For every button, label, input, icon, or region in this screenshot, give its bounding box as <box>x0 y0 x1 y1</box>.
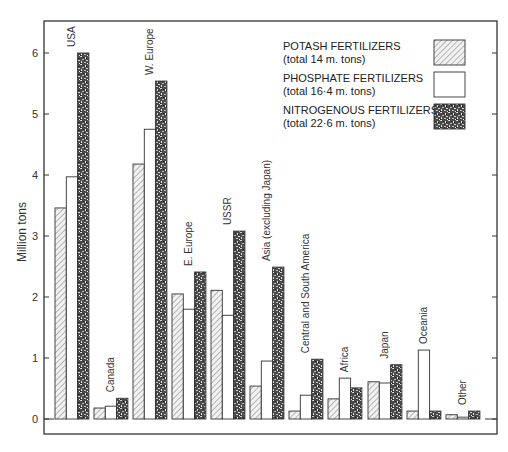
legend-note: (total 22·6 m. tons) <box>283 117 375 129</box>
bar-group <box>446 411 480 419</box>
bar-group <box>94 398 128 419</box>
category-label: Asia (excluding Japan) <box>261 160 272 261</box>
bar-speckled <box>273 267 284 419</box>
legend-label: PHOSPHATE FERTILIZERS <box>283 72 423 84</box>
bar-white <box>66 177 77 419</box>
bar-speckled <box>156 81 167 419</box>
y-tick-label: 2 <box>32 291 38 303</box>
y-tick-label: 5 <box>32 108 38 120</box>
bar-hatched <box>289 411 300 419</box>
y-tick-label: 1 <box>32 352 38 364</box>
category-label: USSR <box>222 197 233 225</box>
bar-white <box>339 378 350 419</box>
category-label: W. Europe <box>144 28 155 75</box>
bar-hatched <box>133 164 144 419</box>
bar-speckled <box>117 398 128 419</box>
bar-white <box>183 309 194 419</box>
category-label: Other <box>457 379 468 405</box>
category-label: Japan <box>379 331 390 358</box>
bar-hatched <box>407 411 418 419</box>
bar-group <box>172 272 206 419</box>
y-tick-label: 0 <box>32 413 38 425</box>
legend-swatch <box>434 40 465 65</box>
bar-speckled <box>430 411 441 419</box>
category-label: Africa <box>339 346 350 372</box>
y-tick-label: 4 <box>32 169 38 181</box>
category-label: Central and South America <box>300 233 311 353</box>
bar-white <box>222 315 233 419</box>
bar-group <box>250 267 284 419</box>
bar-group <box>368 365 402 419</box>
category-label: Oceania <box>418 306 429 344</box>
bar-group <box>55 53 89 419</box>
category-label: Canada <box>105 357 116 392</box>
bar-group <box>328 378 362 419</box>
bar-group <box>289 359 323 419</box>
legend-label: POTASH FERTILIZERS <box>283 40 401 52</box>
bar-white <box>418 350 429 419</box>
bar-group <box>211 231 245 419</box>
bar-hatched <box>211 290 222 419</box>
bar-white <box>105 406 116 419</box>
bar-hatched <box>55 208 66 419</box>
bar-speckled <box>351 388 362 419</box>
bar-speckled <box>234 231 245 419</box>
fertilizer-bar-chart: 0123456 USACanadaW. EuropeE. EuropeUSSRA… <box>0 0 508 452</box>
bar-speckled <box>469 411 480 419</box>
category-label: E. Europe <box>183 221 194 266</box>
legend: POTASH FERTILIZERS(total 14 m. tons)PHOS… <box>283 40 465 129</box>
category-label: USA <box>66 26 77 47</box>
bar-speckled <box>195 272 206 419</box>
y-tick-label: 3 <box>32 230 38 242</box>
legend-note: (total 16·4 m. tons) <box>283 85 375 97</box>
bar-hatched <box>250 386 261 419</box>
y-axis-title: Million tons <box>15 202 29 262</box>
legend-swatch <box>434 104 465 129</box>
bar-speckled <box>312 359 323 419</box>
legend-note: (total 14 m. tons) <box>283 53 366 65</box>
bar-white <box>144 129 155 419</box>
bar-white <box>261 361 272 419</box>
legend-label: NITROGENOUS FERTILIZERS <box>283 104 438 116</box>
bar-hatched <box>446 415 457 419</box>
bar-group <box>133 81 167 419</box>
bar-white <box>457 417 468 419</box>
bar-hatched <box>172 294 183 419</box>
bar-white <box>300 395 311 419</box>
y-tick-label: 6 <box>32 47 38 59</box>
bar-group <box>407 350 441 419</box>
bar-hatched <box>328 399 339 419</box>
legend-swatch <box>434 72 465 97</box>
bar-speckled <box>391 365 402 419</box>
bar-speckled <box>78 53 89 419</box>
bar-hatched <box>368 382 379 419</box>
bar-white <box>379 383 390 419</box>
bar-hatched <box>94 408 105 419</box>
